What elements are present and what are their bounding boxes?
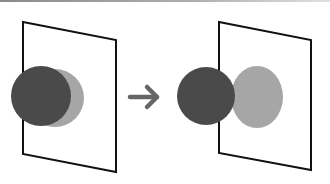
dark-sphere-after [177, 67, 235, 125]
light-sphere-after [231, 66, 283, 128]
arrow-right-icon [130, 87, 157, 107]
panel-after [177, 22, 311, 170]
dark-sphere-before [11, 66, 71, 126]
diagram-canvas [0, 0, 330, 184]
panel-before [11, 22, 116, 172]
